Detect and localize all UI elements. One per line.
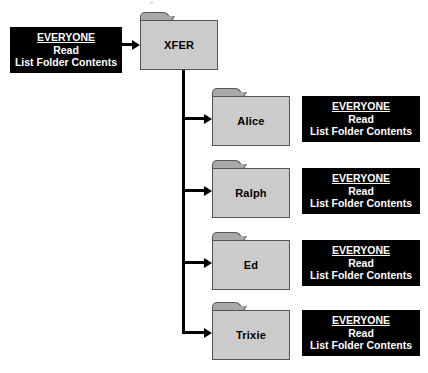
connector-branch-trixie: [182, 331, 206, 334]
connector-branch-ed: [182, 261, 206, 264]
permission-list-folder-contents: List Folder Contents: [15, 56, 117, 69]
arrowhead-branch-alice: [204, 114, 212, 124]
folder-body: XFER: [140, 20, 218, 70]
permission-principal: EVERYONE: [332, 172, 390, 185]
folder-body: Alice: [212, 96, 290, 146]
folder-label-xfer: XFER: [164, 39, 194, 51]
connector-branch-ralph: [182, 189, 206, 192]
permission-list-folder-contents: List Folder Contents: [310, 339, 412, 352]
permission-list-folder-contents: List Folder Contents: [310, 269, 412, 282]
arrowhead-branch-trixie: [204, 328, 212, 338]
folder-label-trixie: Trixie: [236, 329, 266, 341]
permission-read: Read: [348, 113, 374, 126]
permission-list-folder-contents: List Folder Contents: [310, 125, 412, 138]
permission-principal: EVERYONE: [37, 31, 95, 44]
permission-callout-ralph: EVERYONE Read List Folder Contents: [302, 168, 420, 214]
folder-body: Ed: [212, 240, 290, 290]
arrowhead-root-callout: [132, 40, 140, 50]
folder-alice[interactable]: Alice: [212, 88, 290, 146]
permission-callout-ed: EVERYONE Read List Folder Contents: [302, 240, 420, 286]
permission-callout-root: EVERYONE Read List Folder Contents: [10, 27, 122, 73]
diagram-canvas: EVERYONE Read List Folder Contents XFER …: [0, 0, 428, 373]
permission-callout-trixie: EVERYONE Read List Folder Contents: [302, 310, 420, 356]
permission-read: Read: [348, 185, 374, 198]
folder-label-ed: Ed: [244, 259, 258, 271]
folder-xfer[interactable]: XFER: [140, 12, 218, 70]
permission-principal: EVERYONE: [332, 100, 390, 113]
folder-label-ralph: Ralph: [235, 187, 267, 199]
arrowhead-branch-ed: [204, 258, 212, 268]
folder-ralph[interactable]: Ralph: [212, 160, 290, 218]
permission-read: Read: [53, 44, 79, 57]
folder-ed[interactable]: Ed: [212, 232, 290, 290]
permission-callout-alice: EVERYONE Read List Folder Contents: [302, 96, 420, 142]
arrowhead-branch-ralph: [204, 186, 212, 196]
folder-body: Trixie: [212, 310, 290, 360]
permission-principal: EVERYONE: [332, 244, 390, 257]
folder-body: Ralph: [212, 168, 290, 218]
folder-label-alice: Alice: [237, 115, 264, 127]
permission-list-folder-contents: List Folder Contents: [310, 197, 412, 210]
connector-trunk-vertical: [182, 70, 185, 334]
folder-trixie[interactable]: Trixie: [212, 302, 290, 360]
permission-principal: EVERYONE: [332, 314, 390, 327]
connector-branch-alice: [182, 117, 206, 120]
permission-read: Read: [348, 257, 374, 270]
permission-read: Read: [348, 327, 374, 340]
scan-artifact-speck: [150, 1, 153, 4]
